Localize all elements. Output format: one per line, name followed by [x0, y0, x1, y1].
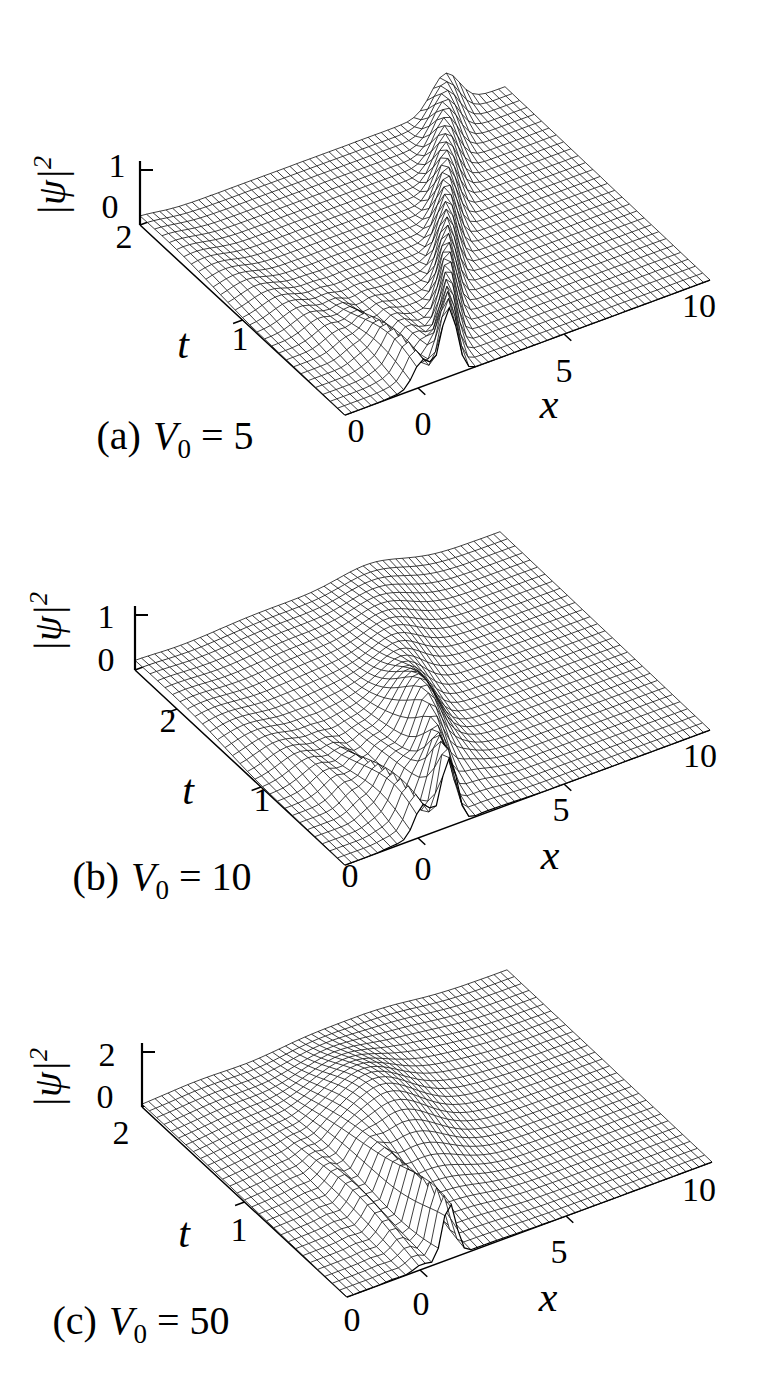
t-tick-label: 1: [232, 322, 249, 356]
caption-equals: =: [179, 854, 202, 899]
z-tick-label: 2: [99, 1038, 116, 1072]
x-tick-label: 0: [415, 852, 432, 886]
x-axis-label: x: [541, 834, 560, 876]
t-tick-label: 0: [344, 1303, 361, 1337]
z-tick-label: 0: [98, 643, 115, 677]
panel-caption: (c)V0=50: [53, 1301, 230, 1341]
caption-subscript: 0: [177, 434, 191, 464]
caption-equals: =: [157, 1298, 180, 1343]
caption-value: 10: [212, 854, 252, 899]
t-tick-label: 0: [342, 859, 359, 893]
t-tick-label: 1: [231, 1213, 248, 1247]
t-tick-label: 2: [160, 704, 177, 738]
z-tick-label: 1: [109, 149, 126, 183]
surface-plot-c: [142, 970, 712, 1297]
panel-caption: (b)V0=10: [72, 857, 251, 897]
caption-value: 50: [189, 1298, 229, 1343]
z-axis-label-sup: 2: [24, 1048, 53, 1061]
t-tick-label: 0: [348, 414, 365, 448]
x-tick-label: 0: [413, 1287, 430, 1321]
caption-symbol: V: [109, 1298, 133, 1343]
caption-prefix: (c): [53, 1298, 97, 1343]
caption-prefix: (a): [97, 413, 141, 458]
z-axis-label: |ψ|2: [28, 592, 68, 652]
z-axis-label-sup: 2: [24, 592, 53, 605]
z-axis-label: |ψ|2: [28, 1048, 68, 1108]
z-axis-label-base: |ψ|: [29, 169, 74, 216]
x-tick-label: 10: [683, 739, 717, 773]
x-tick-label: 10: [682, 1173, 716, 1207]
z-tick-label: 0: [97, 1080, 114, 1114]
x-axis-label: x: [540, 383, 559, 425]
x-axis-label: x: [539, 1276, 558, 1318]
panel-caption: (a)V0=5: [97, 416, 254, 456]
x-tick-label: 5: [551, 1235, 568, 1269]
x-tick-label: 10: [682, 289, 716, 323]
z-axis-label: |ψ|2: [32, 156, 72, 216]
caption-symbol: V: [131, 854, 155, 899]
t-axis-label: t: [178, 1212, 190, 1254]
surface-plot-a: [140, 73, 710, 415]
t-tick-label: 2: [113, 1116, 130, 1150]
caption-equals: =: [201, 413, 224, 458]
z-tick-label: 1: [98, 600, 115, 634]
t-tick-label: 2: [116, 220, 133, 254]
z-axis-label-base: |ψ|: [25, 605, 70, 652]
caption-subscript: 0: [133, 1319, 147, 1349]
t-tick-label: 1: [254, 783, 271, 817]
figure-page: |ψ|2 1 0 2 1 0 0 5 10 t x (a)V0=5 |ψ|2 1…: [0, 0, 762, 1387]
caption-value: 5: [233, 413, 253, 458]
z-axis-label-base: |ψ|: [25, 1061, 70, 1108]
z-axis-label-sup: 2: [28, 156, 57, 169]
t-axis-label: t: [177, 323, 189, 365]
x-tick-label: 0: [415, 407, 432, 441]
caption-prefix: (b): [72, 854, 119, 899]
caption-symbol: V: [153, 413, 177, 458]
surface-plot-b: [135, 532, 710, 865]
t-axis-label: t: [182, 769, 194, 811]
caption-subscript: 0: [156, 875, 170, 905]
x-tick-label: 5: [553, 793, 570, 827]
